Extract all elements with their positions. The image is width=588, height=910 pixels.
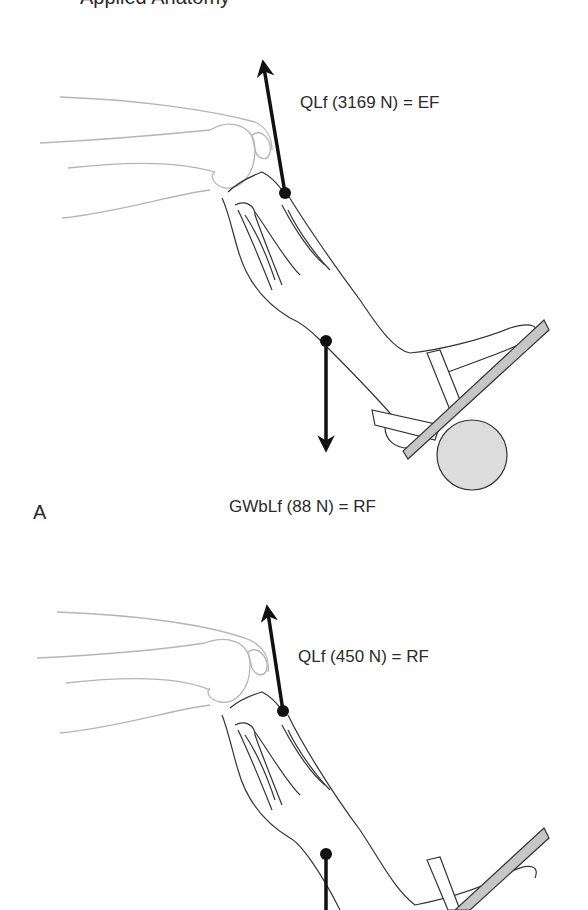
- panel-letter-a: A: [33, 501, 46, 524]
- leg-diagram: [0, 0, 588, 910]
- effort-force-label-a: QLf (3169 N) = EF: [300, 93, 439, 113]
- effort-force-label-b: QLf (450 N) = RF: [298, 647, 429, 667]
- ball-weight: [437, 420, 507, 490]
- effort-force-arrow: [264, 68, 285, 193]
- panel-a-drawing: [40, 68, 549, 490]
- resistance-force-label-a: GWbLf (88 N) = RF: [229, 497, 376, 517]
- panel-b-drawing: [37, 612, 549, 910]
- effort-force-arrow-b: [268, 613, 283, 711]
